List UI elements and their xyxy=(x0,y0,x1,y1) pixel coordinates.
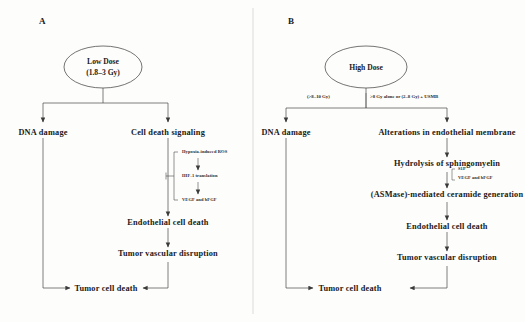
annotation-hypoxia-ros: Hypoxia-induced ROS xyxy=(182,149,227,154)
low-dose-line-1: Low Dose xyxy=(86,56,120,67)
node-dna-damage-a: DNA damage xyxy=(18,128,67,138)
panel-letter-b: B xyxy=(288,16,294,26)
node-endothelial-membrane: Alterations in endothelial membrane xyxy=(378,128,515,138)
panel-letter-a: A xyxy=(39,16,46,26)
node-endothelial-cell-death-b: Endothelial cell death xyxy=(406,222,487,232)
node-tumor-cell-death-a: Tumor cell death xyxy=(74,284,137,294)
low-dose-line-2: (1.8–3 Gy) xyxy=(86,67,120,78)
high-dose-ellipse-text: High Dose xyxy=(349,62,383,73)
high-dose-line-1: High Dose xyxy=(349,62,383,73)
node-endothelial-cell-death-a: Endothelial cell death xyxy=(127,218,208,228)
figure-canvas: A Low Dose (1.8–3 Gy) DNA damage Cell de… xyxy=(0,0,525,322)
annotation-vegf-bfgf-b: VEGF and bFGF xyxy=(458,175,493,180)
node-tumor-cell-death-b: Tumor cell death xyxy=(318,284,381,294)
node-tumor-vascular-disruption-a: Tumor vascular disruption xyxy=(118,249,218,259)
node-hydrolysis-sphingomyelin: Hydrolysis of sphingomyelin xyxy=(394,159,500,169)
node-cell-death-signaling: Cell death signaling xyxy=(131,128,205,138)
annotation-vegf-bfgf-a: VEGF and bFGF xyxy=(182,197,217,202)
node-dna-damage-b: DNA damage xyxy=(261,128,310,138)
low-dose-ellipse-text: Low Dose (1.8–3 Gy) xyxy=(86,56,120,78)
branch-label-right-b: >8 Gy alone or (2–8 Gy) + USMB xyxy=(370,94,438,100)
node-ceramide-generation: (ASMase)-mediated ceramide generation xyxy=(371,190,524,200)
annotation-hif1-translation: HIF-1 translation xyxy=(182,173,218,178)
annotation-s1p: S1P xyxy=(458,166,466,171)
node-tumor-vascular-disruption-b: Tumor vascular disruption xyxy=(397,253,497,263)
branch-label-left-b: (>8–10 Gy) xyxy=(307,94,330,100)
